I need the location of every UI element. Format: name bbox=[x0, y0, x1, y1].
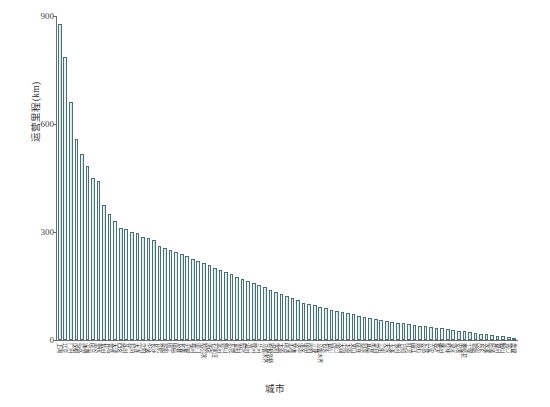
bar[interactable] bbox=[58, 24, 62, 340]
bar[interactable] bbox=[451, 330, 455, 340]
bar[interactable] bbox=[86, 166, 90, 340]
bar[interactable] bbox=[418, 326, 422, 340]
bar[interactable] bbox=[163, 248, 167, 340]
bar[interactable] bbox=[152, 240, 156, 340]
bar[interactable] bbox=[501, 336, 505, 340]
bar[interactable] bbox=[385, 321, 389, 340]
bar[interactable] bbox=[108, 214, 112, 340]
x-tick-label: 丹东 bbox=[478, 343, 483, 353]
bar[interactable] bbox=[357, 316, 361, 340]
x-tick-label: 遵义 bbox=[450, 343, 455, 353]
bar[interactable] bbox=[374, 319, 378, 340]
x-tick-label: 三明 bbox=[378, 343, 383, 353]
bar[interactable] bbox=[324, 308, 328, 340]
bar[interactable] bbox=[130, 232, 134, 340]
bar[interactable] bbox=[147, 238, 151, 340]
bar[interactable] bbox=[390, 322, 394, 340]
bar[interactable] bbox=[424, 326, 428, 340]
bar[interactable] bbox=[191, 259, 195, 340]
bar[interactable] bbox=[446, 329, 450, 340]
bar[interactable] bbox=[136, 233, 140, 340]
chart-figure: 运营里程(km) 城市 0300600900 上海北京广州成都武汉深圳南京重庆杭… bbox=[0, 0, 550, 407]
bar[interactable] bbox=[435, 328, 439, 340]
bar[interactable] bbox=[208, 265, 212, 340]
x-tick-label: 攀枝花 bbox=[461, 343, 466, 358]
bar[interactable] bbox=[396, 323, 400, 340]
bar[interactable] bbox=[80, 154, 84, 340]
bar[interactable] bbox=[219, 270, 223, 340]
x-tick-label: 南充 bbox=[356, 343, 361, 353]
bar[interactable] bbox=[468, 332, 472, 340]
bar[interactable] bbox=[507, 337, 511, 340]
x-tick-label: 柳州 bbox=[439, 343, 444, 353]
bar[interactable] bbox=[102, 205, 106, 340]
bar[interactable] bbox=[185, 256, 189, 340]
bar[interactable] bbox=[407, 324, 411, 340]
x-tick-label: 成都 bbox=[73, 343, 78, 353]
bar[interactable] bbox=[368, 318, 372, 340]
bar[interactable] bbox=[490, 335, 494, 340]
y-axis-title: 运营里程(km) bbox=[28, 37, 42, 187]
bar[interactable] bbox=[402, 323, 406, 340]
bar[interactable] bbox=[330, 310, 334, 340]
bar[interactable] bbox=[202, 263, 206, 340]
bar[interactable] bbox=[363, 317, 367, 340]
bar[interactable] bbox=[257, 285, 261, 340]
bar[interactable] bbox=[291, 298, 295, 340]
bar[interactable] bbox=[174, 252, 178, 340]
bar[interactable] bbox=[280, 294, 284, 340]
x-tick-label: 日照 bbox=[400, 343, 405, 353]
bar[interactable] bbox=[479, 334, 483, 340]
bar[interactable] bbox=[63, 57, 67, 340]
bar[interactable] bbox=[285, 296, 289, 340]
bar[interactable] bbox=[263, 287, 267, 340]
x-tick-label: 太原 bbox=[345, 343, 350, 353]
x-tick-label: 无锡 bbox=[184, 343, 189, 353]
bar[interactable] bbox=[313, 305, 317, 340]
bar[interactable] bbox=[302, 303, 306, 340]
bar[interactable] bbox=[485, 334, 489, 340]
bar[interactable] bbox=[97, 181, 101, 340]
bar[interactable] bbox=[474, 333, 478, 340]
bar[interactable] bbox=[75, 139, 79, 340]
bar[interactable] bbox=[252, 283, 256, 340]
bar[interactable] bbox=[91, 178, 95, 340]
bar[interactable] bbox=[512, 338, 516, 340]
bar[interactable] bbox=[235, 277, 239, 340]
bar[interactable] bbox=[180, 254, 184, 340]
y-tick-mark bbox=[53, 340, 57, 341]
bar[interactable] bbox=[307, 304, 311, 340]
bar[interactable] bbox=[196, 261, 200, 340]
bar[interactable] bbox=[113, 221, 117, 340]
bar[interactable] bbox=[379, 320, 383, 340]
bar[interactable] bbox=[352, 314, 356, 340]
bar[interactable] bbox=[318, 307, 322, 340]
bar[interactable] bbox=[246, 281, 250, 340]
bar[interactable] bbox=[224, 272, 228, 340]
x-tick-label: 南通 bbox=[284, 343, 289, 353]
bar[interactable] bbox=[335, 311, 339, 340]
bar[interactable] bbox=[296, 300, 300, 340]
bar[interactable] bbox=[230, 274, 234, 340]
bar[interactable] bbox=[274, 292, 278, 340]
bar[interactable] bbox=[269, 290, 273, 340]
bar[interactable] bbox=[496, 336, 500, 340]
x-tick-label: 温州 bbox=[245, 343, 250, 353]
bar[interactable] bbox=[169, 250, 173, 340]
bar[interactable] bbox=[341, 312, 345, 340]
bar[interactable] bbox=[241, 279, 245, 340]
bar[interactable] bbox=[158, 246, 162, 340]
bar[interactable] bbox=[463, 331, 467, 340]
x-tick-label: 大同 bbox=[339, 343, 344, 353]
y-tick-label-300: 300 bbox=[41, 227, 55, 237]
bar[interactable] bbox=[124, 229, 128, 340]
bar[interactable] bbox=[119, 228, 123, 340]
bar[interactable] bbox=[440, 328, 444, 340]
bar[interactable] bbox=[457, 331, 461, 340]
bar[interactable] bbox=[141, 237, 145, 340]
bar[interactable] bbox=[69, 102, 73, 340]
bar[interactable] bbox=[413, 325, 417, 340]
bar[interactable] bbox=[429, 327, 433, 340]
bar[interactable] bbox=[346, 313, 350, 340]
bar[interactable] bbox=[213, 268, 217, 340]
